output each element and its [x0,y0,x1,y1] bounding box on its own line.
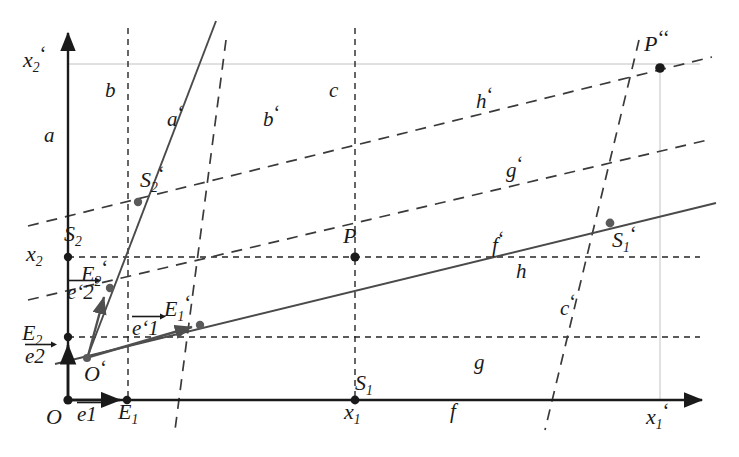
dot-O [63,395,72,404]
dot-E2 [64,333,72,341]
label-vector-e1-prime: e‘1 [131,312,167,338]
label-point-x1-prime: x1‘ [646,401,670,432]
dot-x2 [64,253,72,261]
label-point-x1: x1 [344,401,361,426]
label-line-c: c [329,80,338,101]
line-b-prime [175,40,226,430]
label-line-h-prime: h‘ [476,86,493,112]
dot-P [350,252,359,261]
label-line-f-prime: f‘ [492,230,504,256]
vector-e2-prime [88,297,104,356]
dot-S2-prime [134,198,142,206]
label-point-O: O [46,401,62,428]
point-dots [63,63,664,404]
label-line-b: b [105,80,116,101]
label-point-E1-prime: E1‘ [164,293,191,324]
label-line-a: a [44,125,55,146]
line-h-prime [28,57,712,226]
label-line-g-prime: g‘ [506,155,523,181]
label-point-P-double-prime: P‘‘ [644,28,670,55]
label-line-h: h [516,261,527,282]
label-line-b-prime: b‘ [263,104,280,130]
label-line-a-prime: a‘ [167,104,184,130]
dot-E1-prime [196,321,204,329]
label-point-S1: S1 [355,372,373,397]
label-point-E1: E1 [118,401,138,426]
label-vector-e2: e2 [24,340,58,366]
dot-P-prime2 [655,63,665,73]
label-line-f: f [450,401,456,422]
faint-gridlines [68,64,700,400]
label-line-g: g [474,352,485,373]
label-point-O-prime: O‘ [84,358,107,385]
label-point-S2: S2 [64,223,82,248]
label-point-x2-prime: x2‘ [23,44,47,75]
label-vector-e2-prime: e‘2 [66,276,102,302]
label-point-x2: x2 [26,243,43,268]
label-point-S2-prime: S2‘ [140,164,165,195]
label-point-S1-prime: S1‘ [612,224,637,255]
geometry-figure: O E1 E2 x2 x2‘ x1 x1‘ O‘ E1‘ E2‘ S2 S2‘ … [0,0,739,457]
label-vector-e1: e1 [76,398,110,424]
label-point-P: P [343,225,356,247]
label-line-c-prime: c‘ [560,293,576,319]
